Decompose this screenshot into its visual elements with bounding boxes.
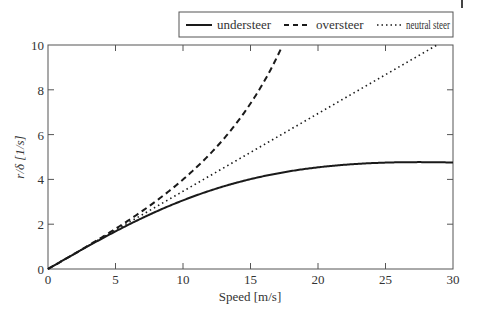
legend-label-oversteer: oversteer: [316, 17, 364, 32]
y-tick-label: 0: [38, 262, 45, 277]
line-oversteer: [48, 48, 282, 269]
y-tick-label: 2: [38, 217, 45, 232]
x-tick-label: 25: [379, 272, 392, 287]
x-tick-label: 5: [112, 272, 119, 287]
x-tick-label: 20: [312, 272, 325, 287]
series-lines: [48, 45, 453, 269]
x-tick-label: 0: [45, 272, 52, 287]
stray-mark: [461, 0, 463, 8]
line-understeer: [48, 162, 453, 269]
x-axis-label: Speed [m/s]: [219, 289, 281, 304]
y-tick-label: 10: [31, 38, 44, 53]
legend-label-understeer: understeer: [217, 17, 272, 32]
y-axis-label: r/δ [1/s]: [12, 135, 27, 178]
chart: 051015202530 0246810 Speed [m/s] r/δ [1/…: [0, 0, 477, 312]
line-neutral-steer: [48, 45, 437, 269]
y-tick-label: 6: [38, 128, 45, 143]
y-tick-label: 8: [38, 83, 45, 98]
y-tick-label: 4: [38, 172, 45, 187]
x-tick-label: 30: [447, 272, 460, 287]
x-tick-label: 10: [177, 272, 190, 287]
legend: understeer oversteer neutral steer: [179, 12, 453, 37]
x-ticks: 051015202530: [45, 45, 460, 287]
x-tick-label: 15: [244, 272, 257, 287]
legend-label-neutral: neutral steer: [406, 17, 450, 32]
